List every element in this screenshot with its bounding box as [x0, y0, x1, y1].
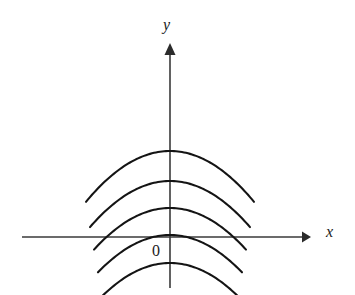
- parabola-family-figure: y x 0: [0, 0, 355, 295]
- x-axis-arrowhead-icon: [302, 232, 311, 243]
- y-axis-arrowhead-icon: [165, 43, 176, 55]
- y-axis-label: y: [163, 17, 170, 33]
- axes-group: [22, 43, 311, 288]
- origin-label: 0: [152, 243, 160, 259]
- coordinate-plot-canvas: [0, 0, 355, 295]
- x-axis-label: x: [326, 224, 333, 240]
